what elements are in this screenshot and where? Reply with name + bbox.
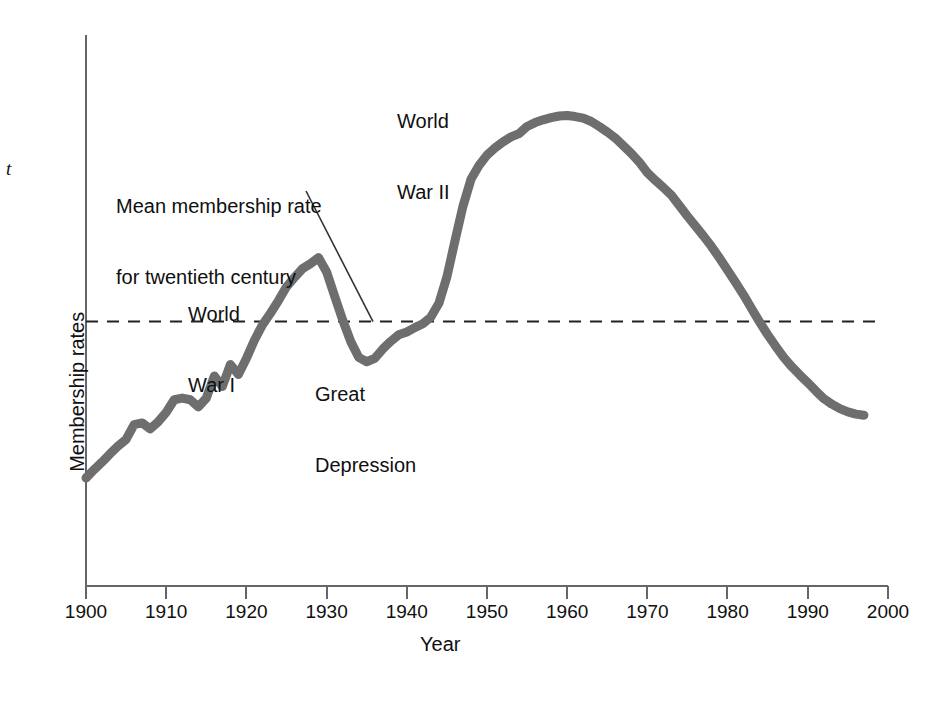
- x-axis-ticks: [86, 586, 888, 599]
- annotation-world-war-1: World War I: [188, 256, 240, 445]
- x-tick-label-1990: 1990: [778, 601, 838, 623]
- x-tick-label-1980: 1980: [698, 601, 758, 623]
- x-tick-label-1900: 1900: [56, 601, 116, 623]
- annotation-depression-line-1: Great: [315, 383, 416, 407]
- x-tick-label-1930: 1930: [297, 601, 357, 623]
- annotation-depression-line-2: Depression: [315, 454, 416, 478]
- x-tick-label-1920: 1920: [216, 601, 276, 623]
- x-tick-label-1940: 1940: [377, 601, 437, 623]
- x-tick-label-1950: 1950: [457, 601, 517, 623]
- y-axis-title: Membership rates: [66, 292, 90, 492]
- x-axis-title: Year: [420, 633, 460, 657]
- x-tick-label-2000: 2000: [858, 601, 918, 623]
- page-text-fragment: t: [6, 158, 11, 180]
- x-tick-label-1910: 1910: [136, 601, 196, 623]
- x-tick-label-1970: 1970: [617, 601, 677, 623]
- annotation-mean-line-1: Mean membership rate: [116, 195, 322, 219]
- annotation-great-depression: Great Depression: [315, 336, 416, 525]
- annotation-ww1-line-1: World: [188, 303, 240, 327]
- annotation-ww2-line-2: War II: [397, 181, 450, 205]
- annotation-ww1-line-2: War I: [188, 374, 240, 398]
- x-tick-label-1960: 1960: [537, 601, 597, 623]
- membership-rates-chart: t Membership rates Year 1900191019201930…: [0, 0, 942, 709]
- annotation-world-war-2: World War II: [397, 63, 450, 252]
- annotation-ww2-line-1: World: [397, 110, 450, 134]
